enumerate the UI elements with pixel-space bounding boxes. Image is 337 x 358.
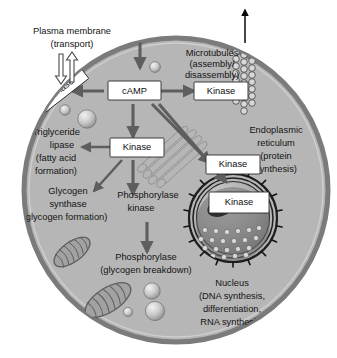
vesicle — [144, 283, 160, 299]
svg-text:kinase: kinase — [128, 203, 155, 213]
svg-text:disassembly): disassembly) — [185, 70, 239, 80]
vesicle — [123, 307, 132, 316]
box-kinase-er[interactable]: Kinase — [206, 155, 260, 174]
box-camp[interactable]: cAMP — [108, 81, 161, 100]
svg-text:Nucleus: Nucleus — [215, 278, 249, 288]
svg-text:reticulum: reticulum — [257, 138, 295, 148]
svg-text:Phosphorylase: Phosphorylase — [115, 252, 177, 262]
svg-text:differentiation,: differentiation, — [203, 304, 261, 314]
svg-text:(glycogen formation): (glycogen formation) — [23, 212, 108, 222]
svg-text:Endoplasmic: Endoplasmic — [249, 125, 303, 135]
vesicle — [78, 110, 96, 128]
svg-text:lipase: lipase — [50, 140, 74, 150]
vesicle — [150, 62, 161, 73]
label-microtubules: Microtubules (assembly/ disassembly) — [185, 48, 239, 80]
svg-text:Kinase: Kinase — [207, 86, 235, 96]
transport-double-arrow-icon — [56, 52, 78, 84]
vesicle — [145, 301, 164, 320]
svg-text:Microtubules: Microtubules — [186, 48, 239, 58]
svg-text:(protein: (protein — [260, 151, 292, 161]
svg-text:(fatty acid: (fatty acid — [36, 153, 76, 163]
svg-text:Kinase: Kinase — [123, 142, 151, 152]
svg-text:Kinase: Kinase — [219, 159, 247, 169]
svg-text:Glycogen: Glycogen — [48, 186, 87, 196]
svg-text:Triglyceride: Triglyceride — [32, 127, 80, 137]
svg-text:formation): formation) — [35, 166, 77, 176]
svg-text:(assembly/: (assembly/ — [190, 59, 235, 69]
svg-text:Plasma membrane: Plasma membrane — [33, 26, 111, 36]
svg-text:cAMP: cAMP — [122, 86, 147, 96]
svg-text:Kinase: Kinase — [225, 197, 253, 207]
svg-text:synthase: synthase — [49, 199, 86, 209]
svg-text:(glycogen breakdown): (glycogen breakdown) — [100, 265, 191, 275]
svg-text:synthesis): synthesis) — [255, 164, 297, 174]
vesicle — [60, 105, 70, 115]
box-kinase-nucleus[interactable]: Kinase — [209, 192, 269, 213]
box-kinase-microtubules[interactable]: Kinase — [194, 82, 248, 100]
svg-text:(transport): (transport) — [51, 39, 94, 49]
svg-text:(DNA synthesis,: (DNA synthesis, — [199, 291, 265, 301]
cell-signaling-diagram: Microtubules (assembly/ disassembly) Tri… — [0, 0, 337, 358]
svg-text:Phosphorylase: Phosphorylase — [117, 190, 179, 200]
box-kinase-lipase[interactable]: Kinase — [110, 138, 164, 157]
diagram-canvas: Microtubules (assembly/ disassembly) Tri… — [0, 0, 337, 358]
label-plasma-membrane: Plasma membrane (transport) — [33, 26, 111, 49]
